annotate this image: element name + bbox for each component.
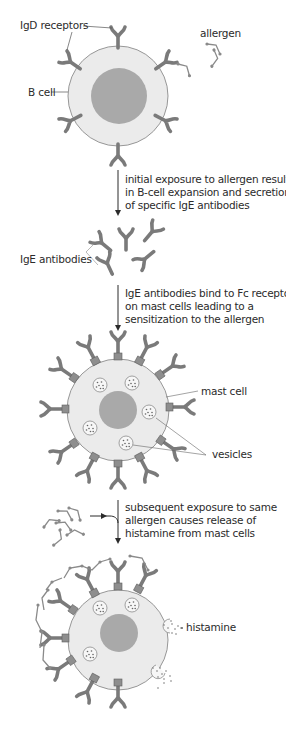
label-histamine: histamine [186, 621, 236, 634]
label-igd-receptors: IgD receptors [20, 19, 88, 32]
allergen-cluster [42, 506, 86, 547]
label-allergen: allergen [200, 27, 241, 40]
merge-arrowhead [101, 513, 107, 519]
caption-step1-line-2: in B-cell expansion and secretion [125, 186, 286, 199]
mast-cell-leader-line [166, 391, 198, 397]
histamine-pointer-dot [181, 627, 183, 629]
label-b-cell: B cell [28, 86, 55, 99]
label-mast-cell: mast cell [201, 385, 247, 398]
allergen-molecules [175, 42, 223, 77]
caption-step2-line-3: sensitization to the allergen [125, 313, 264, 326]
caption-step1-line-3: of specific IgE antibodies [125, 199, 249, 212]
caption-step3-line-1: subsequent exposure to same [125, 501, 277, 514]
ige-antibodies-group [90, 220, 163, 277]
caption-step2-line-1: IgE antibodies bind to Fc receptors [125, 287, 286, 300]
b-cell [68, 46, 168, 146]
caption-step2-line-2: on mast cells leading to a [125, 300, 254, 313]
label-ige-antibodies: IgE antibodies [20, 253, 92, 266]
igd-leader-line-2 [67, 32, 72, 50]
caption-step3-line-2: allergen causes release of [125, 514, 256, 527]
diagram-canvas [0, 0, 286, 733]
caption-step1-line-1: initial exposure to allergen results [125, 173, 286, 186]
label-vesicles: vesicles [212, 448, 252, 461]
caption-step3-line-3: histamine from mast cells [125, 527, 255, 540]
